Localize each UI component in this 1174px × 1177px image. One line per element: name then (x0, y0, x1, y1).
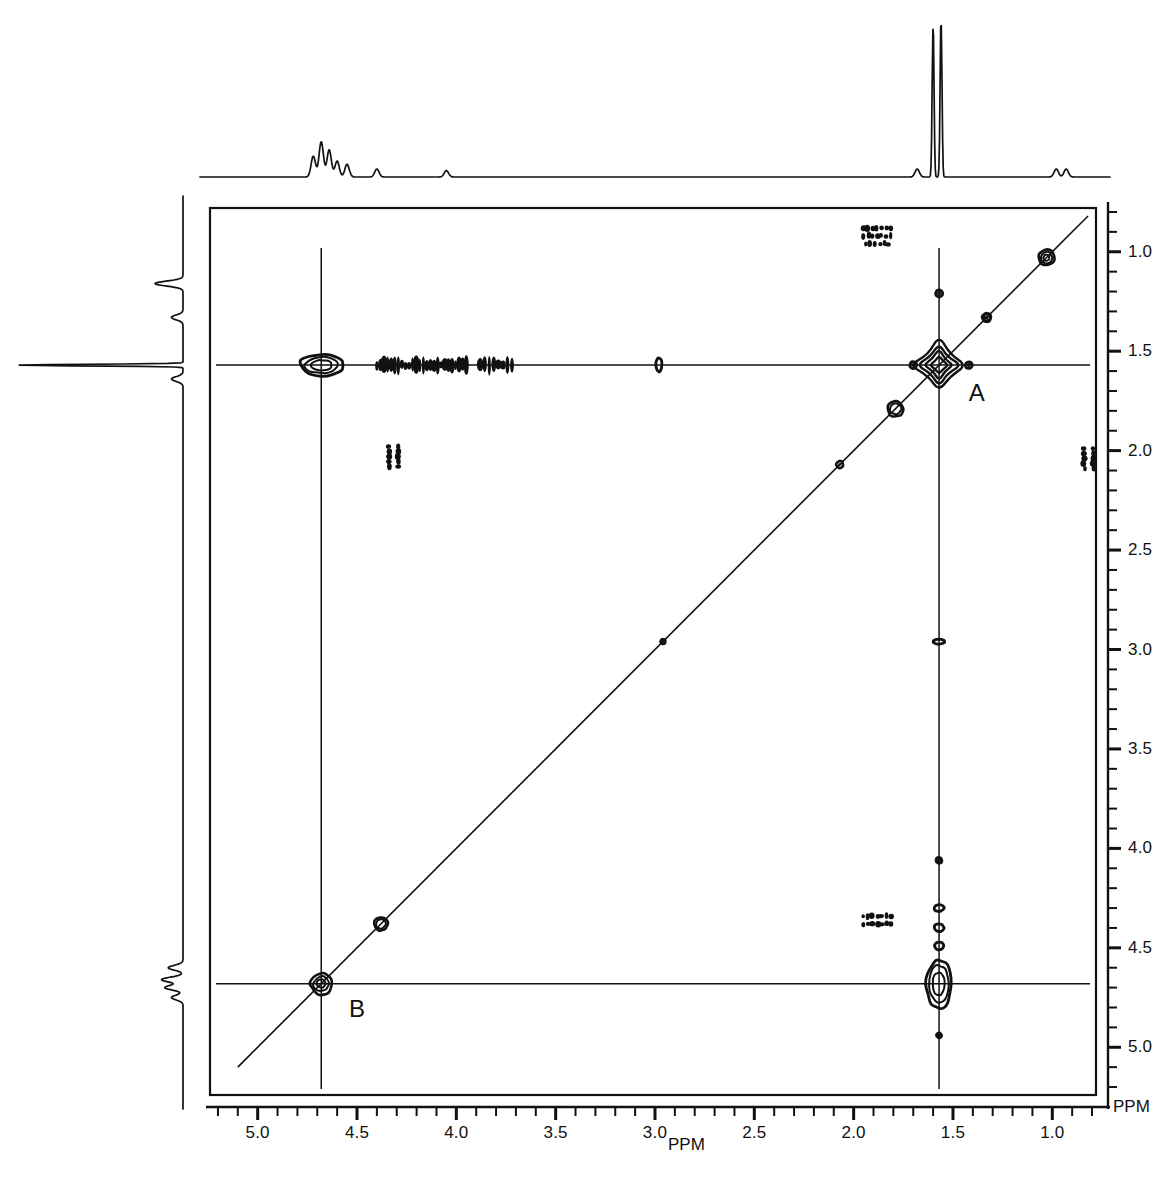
noise-blip (464, 355, 469, 375)
artifact-dot (869, 921, 875, 926)
x-axis-ticks (206, 1107, 1110, 1120)
cross-peak (936, 857, 942, 863)
contour-core (662, 640, 665, 643)
y-tick-label: 5.0 (1128, 1037, 1152, 1057)
artifact-dot (867, 240, 872, 247)
artifact-dot (397, 458, 401, 465)
noise-blip (449, 358, 454, 373)
contour-core (838, 463, 841, 466)
noise-blip (404, 362, 408, 370)
artifact-dot (888, 921, 893, 927)
contour-core (937, 292, 941, 296)
artifact-dot (884, 234, 889, 239)
diagonal-peak (982, 313, 991, 322)
noise-blip (505, 356, 509, 374)
artifact-dot (879, 922, 885, 926)
cross-peak (910, 362, 917, 369)
cross-peak (936, 290, 943, 297)
diagonal-peak (660, 639, 665, 644)
artifact-dot (878, 242, 882, 246)
artifact-dot (387, 463, 392, 470)
artifact-dot (889, 225, 894, 231)
contour-core (937, 858, 941, 862)
noise-blip (375, 361, 378, 370)
y-tick-label: 4.0 (1128, 838, 1152, 858)
artifact-dot (885, 912, 889, 919)
artifact-dot (889, 232, 892, 239)
artifact-dot (386, 444, 391, 449)
artifact-dot (388, 453, 392, 459)
projection-left-trace (19, 196, 183, 1109)
projection-top-trace (200, 26, 1110, 177)
artifact-dot (866, 913, 870, 920)
artifact-dot (879, 226, 884, 231)
x-tick-label: 1.5 (937, 1123, 969, 1143)
artifact-dot (387, 450, 392, 454)
artifact-dot (878, 914, 884, 918)
artifact-dot (1083, 466, 1087, 471)
y-tick-label: 3.5 (1128, 739, 1152, 759)
artifact-dot (861, 233, 865, 240)
noise-blip (510, 358, 514, 373)
x-tick-label: 3.5 (540, 1123, 572, 1143)
x-tick-label: 4.5 (341, 1123, 373, 1143)
artifact-dot (395, 465, 401, 469)
y-tick-label: 1.5 (1128, 341, 1152, 361)
projection-top (200, 26, 1110, 177)
artifact-dot (861, 922, 865, 927)
noise-blip (418, 359, 421, 372)
noise-blip (397, 356, 400, 375)
x-tick-label: 1.0 (1036, 1123, 1068, 1143)
y-tick-label: 4.5 (1128, 938, 1152, 958)
noise-blip (500, 361, 506, 370)
artifact-dot (1081, 446, 1086, 451)
x-tick-label: 5.0 (242, 1123, 274, 1143)
x-tick-label: 4.0 (440, 1123, 472, 1143)
noise-blip (488, 356, 491, 376)
y-tick-label: 2.0 (1128, 441, 1152, 461)
noise-blip (393, 356, 397, 374)
x-tick-label: 3.0 (639, 1123, 671, 1143)
cross-peak (965, 362, 972, 368)
artifact-dot (1081, 451, 1087, 456)
y-tick-label: 2.5 (1128, 540, 1152, 560)
contour-core (967, 363, 971, 367)
noise-ridges (375, 355, 514, 376)
peak-label-a: A (969, 379, 985, 407)
contour-core (985, 316, 989, 320)
nmr-cosy-figure: 5.04.54.03.53.02.52.01.51.01.01.52.02.53… (0, 0, 1174, 1177)
artifact-dot (884, 921, 889, 927)
artifact-dot (885, 242, 891, 246)
noise-blip (407, 362, 411, 370)
x-tick-label: 2.5 (738, 1123, 770, 1143)
artifact-dot (869, 913, 875, 919)
peak-label-b: B (349, 995, 365, 1023)
artifact-dot (879, 233, 882, 238)
y-tick-label: 1.0 (1128, 242, 1152, 262)
contour-core (937, 1033, 941, 1037)
cursor-lines (216, 248, 1090, 1089)
noise-blip (483, 356, 487, 372)
artifact-dot (874, 225, 878, 232)
contour-core (911, 363, 915, 367)
cross-peak (936, 1033, 941, 1038)
artifact-dot (864, 225, 870, 232)
spectrum-canvas (0, 0, 1174, 1177)
y-axis-unit-label: PPM (1113, 1097, 1150, 1117)
artifact-dot (870, 233, 874, 238)
artifact-dot (1092, 466, 1096, 472)
artifact-clusters (386, 225, 1097, 928)
projection-left (19, 196, 183, 1109)
artifact-dot (862, 914, 865, 918)
y-axis-ticks (1108, 202, 1121, 1109)
artifact-dot (888, 914, 894, 920)
artifact-dot (885, 226, 890, 231)
diagonal-peak (836, 461, 843, 468)
artifact-dot (873, 241, 877, 247)
artifact-dot (864, 242, 867, 247)
x-tick-label: 2.0 (838, 1123, 870, 1143)
x-axis-unit-label: PPM (668, 1135, 705, 1155)
noise-blip (400, 360, 404, 369)
y-tick-label: 3.0 (1128, 640, 1152, 660)
